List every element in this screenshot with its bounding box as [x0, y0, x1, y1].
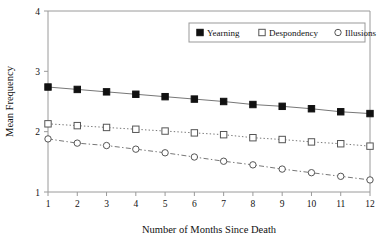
legend-label-yearning: Yearning: [207, 28, 240, 38]
chart-container: 1234123456789101112Number of Months Sinc…: [0, 0, 385, 239]
data-point-illusions-month-7: [220, 158, 226, 164]
data-point-yearning-month-12: [367, 110, 373, 116]
legend-label-despondency: Despondency: [269, 28, 318, 38]
data-point-yearning-month-2: [74, 86, 80, 92]
data-point-yearning-month-10: [308, 106, 314, 112]
x-tick-label-1: 1: [46, 199, 51, 209]
data-point-despondency-month-10: [308, 139, 314, 145]
data-point-despondency-month-2: [74, 122, 80, 128]
data-point-despondency-month-1: [45, 121, 51, 127]
data-point-illusions-month-3: [103, 142, 109, 148]
legend-marker-yearning: [197, 29, 203, 35]
data-point-yearning-month-6: [191, 96, 197, 102]
legend-marker-illusions: [335, 29, 341, 35]
data-point-yearning-month-4: [133, 91, 139, 97]
x-tick-label-2: 2: [75, 199, 80, 209]
legend-marker-despondency: [259, 29, 265, 35]
data-point-illusions-month-10: [308, 169, 314, 175]
data-point-illusions-month-4: [133, 146, 139, 152]
x-tick-label-11: 11: [336, 199, 345, 209]
data-point-despondency-month-5: [162, 128, 168, 134]
data-point-illusions-month-11: [338, 173, 344, 179]
data-point-despondency-month-4: [133, 126, 139, 132]
data-point-yearning-month-3: [103, 89, 109, 95]
data-point-illusions-month-9: [279, 166, 285, 172]
y-tick-label-2: 2: [35, 127, 40, 137]
series-line-yearning: [48, 87, 370, 114]
y-tick-label-3: 3: [35, 67, 40, 77]
data-point-yearning-month-5: [162, 93, 168, 99]
data-point-despondency-month-9: [279, 136, 285, 142]
x-tick-label-5: 5: [163, 199, 168, 209]
data-point-yearning-month-9: [279, 103, 285, 109]
x-tick-label-4: 4: [133, 199, 138, 209]
x-tick-label-10: 10: [307, 199, 317, 209]
data-point-despondency-month-8: [250, 135, 256, 141]
x-tick-label-6: 6: [192, 199, 197, 209]
data-point-despondency-month-11: [338, 141, 344, 147]
data-point-despondency-month-3: [103, 124, 109, 130]
data-point-yearning-month-8: [250, 101, 256, 107]
data-point-illusions-month-6: [191, 154, 197, 160]
data-point-illusions-month-12: [367, 177, 373, 183]
data-point-yearning-month-7: [220, 98, 226, 104]
data-point-illusions-month-5: [162, 150, 168, 156]
series-line-despondency: [48, 124, 370, 146]
legend-label-illusions: Illusions: [345, 28, 377, 38]
data-point-despondency-month-7: [220, 131, 226, 137]
data-point-yearning-month-1: [45, 84, 51, 90]
y-tick-label-4: 4: [35, 7, 40, 17]
data-point-illusions-month-8: [250, 162, 256, 168]
data-point-despondency-month-6: [191, 130, 197, 136]
mean-frequency-line-chart: 1234123456789101112Number of Months Sinc…: [0, 0, 385, 239]
data-point-illusions-month-2: [74, 140, 80, 146]
x-axis-title: Number of Months Since Death: [142, 224, 277, 235]
x-tick-label-12: 12: [365, 199, 375, 209]
data-point-yearning-month-11: [338, 109, 344, 115]
series-line-illusions: [48, 139, 370, 180]
x-tick-label-3: 3: [104, 199, 109, 209]
y-axis-title: Mean Frequency: [4, 65, 15, 137]
x-tick-label-7: 7: [221, 199, 226, 209]
x-tick-label-8: 8: [251, 199, 256, 209]
data-point-despondency-month-12: [367, 143, 373, 149]
data-point-illusions-month-1: [45, 136, 51, 142]
x-tick-label-9: 9: [280, 199, 285, 209]
y-tick-label-1: 1: [35, 188, 40, 198]
